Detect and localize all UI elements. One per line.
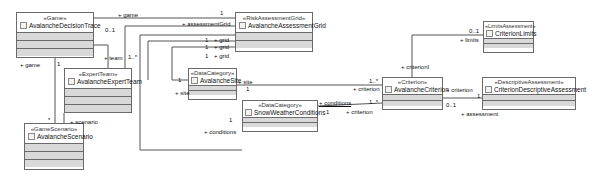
class-avalanche-site[interactable]: «DataCategory» AvalancheSite [188,68,237,100]
multiplicity-label: 1 [220,10,223,17]
extra-compartment [25,159,83,167]
class-name: AvalancheSite [200,77,241,84]
multiplicity-label: 1 [57,61,60,68]
role-label: + criterion [353,86,380,93]
operations-compartment [25,151,83,159]
operations-compartment [243,122,317,127]
multiplicity-label: 1 [205,37,208,44]
class-stereotype: «DescriptiveAssessment» [484,78,574,86]
multiplicity-label: 0..1 [105,27,115,34]
attributes-compartment [236,32,312,40]
class-icon [385,86,392,93]
operations-compartment [484,43,533,48]
operations-compartment [65,96,131,104]
operations-compartment [383,100,442,106]
class-stereotype: «RiskAssessmentGrid» [238,14,310,22]
role-label: + limits [460,37,479,44]
multiplicity-label: 1 [205,53,208,60]
class-name: AvalancheCriterion [394,86,449,93]
class-icon [245,109,252,116]
role-label: + criterion [346,109,373,116]
class-name: SnowWeatherConditions [254,109,325,116]
class-avalanche-expert-team[interactable]: «ExpertTeam» AvalancheExpertTeam [64,68,132,113]
attributes-compartment [25,143,83,151]
operations-compartment [236,40,312,48]
class-stereotype: «DataCategory» [244,101,316,109]
class-avalanche-scenario[interactable]: «GameScenario» AvalancheScenario [24,123,84,170]
multiplicity-label: 1 [246,86,249,93]
class-icon [239,22,246,29]
multiplicity-label: 1..* [369,99,378,106]
role-label: + conditions [204,129,236,136]
multiplicity-label: 1 [229,117,232,124]
class-stereotype: «LimitsAssessment» [485,22,532,30]
multiplicity-label: 1..* [369,78,378,85]
role-label: + game [118,12,138,19]
role-label: + assessment [461,111,498,118]
multiplicity-label: * [48,117,50,124]
class-icon [68,78,75,85]
class-stereotype: «ExpertTeam» [67,70,129,78]
operations-compartment [189,90,236,95]
multiplicity-label: 1..* [128,54,137,61]
role-label: + grid [214,53,229,60]
role-label: + criterionI [401,64,429,71]
role-label: + site [238,79,253,86]
role-label: + team [104,55,123,62]
class-avalanche-decision-trace[interactable]: «Game» AvalancheDecisionTrace [16,12,94,58]
class-stereotype: «GameScenario» [27,125,81,133]
attributes-compartment [17,32,93,40]
class-icon [486,30,493,37]
operations-compartment [17,40,93,48]
class-icon [20,22,27,29]
role-label: + scenario [70,119,98,126]
class-name: AvalancheExpertTeam [77,78,142,85]
class-criterion-descriptive-assessment[interactable]: «DescriptiveAssessment» CriterionDescrip… [482,77,576,110]
class-stereotype: «Criterion» [384,78,441,86]
class-name: AvalancheAssessmentGrid [248,22,326,29]
role-label: + grid [214,37,229,44]
role-label: + conditions [319,100,351,107]
attributes-compartment [65,88,131,96]
class-name: CriterionLimits [495,30,537,37]
class-name: CriterionDescriptiveAssessment [494,86,586,93]
class-icon [28,133,35,140]
class-icon [191,77,198,84]
multiplicity-label: 0..1 [469,28,479,35]
multiplicity-label: 1 [326,109,329,116]
multiplicity-label: 0..1 [446,102,456,109]
class-stereotype: «Game» [19,14,91,22]
class-name: AvalancheDecisionTrace [29,22,101,29]
role-label: + criterion [446,87,473,94]
class-icon [485,86,492,93]
multiplicity-label: 1 [477,93,480,100]
role-label: + game [20,62,40,69]
class-avalanche-criterion[interactable]: «Criterion» AvalancheCriterion [382,77,443,110]
class-criterion-limits[interactable]: «LimitsAssessment» CriterionLimits [483,21,534,53]
class-stereotype: «DataCategory» [190,69,235,77]
extra-compartment [17,48,93,56]
class-name: AvalancheScenario [37,133,93,140]
class-avalanche-assessment-grid[interactable]: «RiskAssessmentGrid» AvalancheAssessment… [235,12,313,52]
multiplicity-label: 1 [205,44,208,51]
extra-compartment [65,104,131,112]
operations-compartment [483,100,575,106]
class-snow-weather-conditions[interactable]: «DataCategory» SnowWeatherConditions [242,100,318,132]
role-label: + assessmentGrid [182,21,231,28]
multiplicity-label: 1 [178,77,181,84]
role-label: + grid [214,44,229,51]
role-label: + site [175,90,190,97]
